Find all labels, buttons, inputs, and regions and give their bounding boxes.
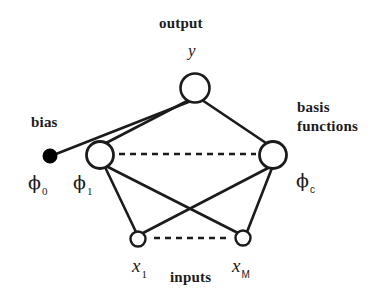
x-M-base: x	[232, 255, 240, 276]
phi-0-symbol: ϕ0	[28, 173, 46, 192]
phi-1-subscript: 1	[87, 185, 93, 197]
inputs-label: inputs	[170, 270, 211, 285]
phi-0-base: ϕ	[28, 171, 41, 193]
x-1-subscript: 1	[141, 268, 147, 280]
edge-phi1-to-output	[106, 100, 189, 143]
node-hidden-phi-1[interactable]	[87, 142, 114, 169]
basis-functions-label-line1: basis	[297, 100, 330, 115]
phi-1-base: ϕ	[73, 171, 86, 193]
node-input-x-M[interactable]	[236, 231, 251, 246]
edge-xM-to-phi1	[106, 166, 238, 233]
edge-x1-to-phi1	[105, 167, 136, 232]
x-M-symbol: xM	[232, 256, 249, 275]
node-output-y[interactable]	[181, 74, 210, 103]
phi-1-symbol: ϕ1	[73, 173, 91, 192]
basis-functions-label-line2: functions	[297, 119, 358, 134]
phi-c-base: ϕ	[296, 169, 309, 191]
edge-phic-to-output	[202, 100, 266, 143]
rbf-network-diagram: output y bias basis functions inputs ϕ0 …	[0, 0, 373, 301]
x-1-base: x	[132, 255, 140, 276]
x-1-symbol: x1	[132, 256, 146, 275]
bias-label: bias	[31, 115, 58, 130]
node-hidden-phi-c[interactable]	[260, 142, 287, 169]
phi-c-symbol: ϕc	[296, 171, 314, 190]
x-M-subscript: M	[241, 269, 249, 280]
edge-group	[56, 100, 272, 233]
phi-0-subscript: 0	[42, 185, 48, 197]
network-graphic	[0, 0, 373, 301]
ellipsis-group	[119, 154, 256, 238]
output-label: output	[159, 16, 203, 31]
node-input-x-1[interactable]	[131, 232, 146, 247]
output-symbol-label: y	[188, 42, 196, 59]
phi-c-subscript: c	[310, 184, 315, 195]
node-bias[interactable]	[44, 150, 57, 163]
